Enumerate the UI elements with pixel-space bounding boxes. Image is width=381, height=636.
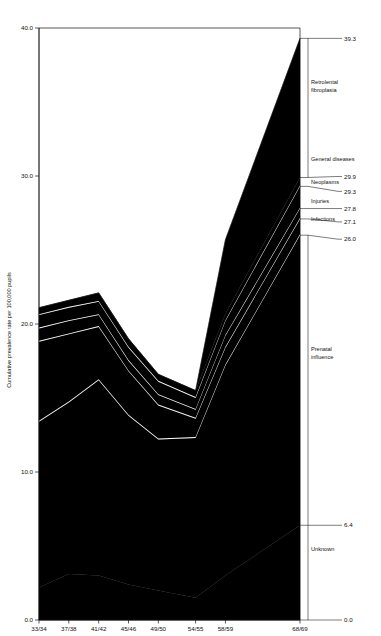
y-tick-label-30: 30.0 — [21, 172, 34, 179]
y-tick-label-40: 40.0 — [21, 24, 34, 31]
y-axis: 0.010.020.030.040.0 — [21, 24, 39, 623]
band-annotations: RetrolentalfibroplasiaGeneral diseasesNe… — [311, 79, 355, 552]
leader-line-v26_0 — [300, 235, 342, 239]
leader-line-v29_9 — [300, 176, 342, 177]
right-value-v29_3: 29.3 — [344, 188, 357, 195]
chart-container: 0.010.020.030.040.0 33/3437/3841/4245/46… — [0, 0, 381, 636]
x-tick-label-3: 45/46 — [121, 625, 137, 632]
x-tick-label-2: 41/42 — [91, 625, 107, 632]
right-value-v29_9: 29.9 — [344, 173, 357, 180]
x-tick-label-4: 49/50 — [151, 625, 167, 632]
right-value-v26_0: 26.0 — [344, 235, 357, 242]
x-axis: 33/3437/3841/4245/4649/5054/5558/5968/69 — [31, 620, 308, 632]
x-tick-label-1: 37/38 — [61, 625, 77, 632]
y-tick-label-10: 10.0 — [21, 468, 34, 475]
x-tick-label-5: 54/55 — [188, 625, 204, 632]
band-label-infections: Infections — [311, 216, 335, 222]
right-value-v27_1: 27.1 — [344, 218, 357, 225]
band-label-neoplasms: Neoplasms — [311, 179, 339, 185]
right-value-v6_4: 6.4 — [344, 521, 353, 528]
band-label-retrolental-fibroplasia-2: fibroplasia — [311, 87, 337, 93]
y-tick-label-20: 20.0 — [21, 320, 34, 327]
right-value-v39_3: 39.3 — [344, 35, 357, 42]
area-bands — [39, 38, 300, 620]
band-label-unknown: Unknown — [311, 546, 334, 552]
right-value-labels: 39.329.929.327.827.126.06.40.0 — [300, 35, 357, 624]
y-tick-label-0: 0.0 — [24, 616, 33, 623]
band-label-general-diseases: General diseases — [311, 156, 355, 162]
band-label-injuries: Injuries — [311, 198, 329, 204]
y-axis-title: Cumulative prevalence rate per 100,000 p… — [6, 272, 12, 388]
x-tick-label-7: 68/69 — [292, 625, 308, 632]
band-label-prenatal-influence-1: Prenatal — [311, 346, 332, 352]
x-tick-label-6: 58/59 — [218, 625, 234, 632]
x-tick-label-0: 33/34 — [31, 625, 47, 632]
stacked-area-chart: 0.010.020.030.040.0 33/3437/3841/4245/46… — [0, 0, 381, 636]
right-value-v27_8: 27.8 — [344, 205, 357, 212]
leader-line-v29_3 — [300, 186, 342, 191]
band-label-retrolental-fibroplasia-1: Retrolental — [311, 79, 338, 85]
right-value-v0_0: 0.0 — [344, 616, 353, 623]
band-label-prenatal-influence-2: influence — [311, 354, 333, 360]
